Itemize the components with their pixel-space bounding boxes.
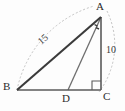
vertex-label-D: D (62, 93, 70, 104)
length-label-10: 10 (106, 45, 116, 55)
vertex-label-A: A (96, 1, 104, 12)
geometry-figure: A B C D 15 10 (0, 0, 125, 111)
angle-tick-2-icon (96, 28, 99, 29)
segment-BA (17, 17, 101, 90)
right-angle-marker-C (92, 81, 101, 90)
arc-radius-15 (17, 6, 94, 90)
vertex-label-B: B (3, 81, 10, 92)
vertex-label-C: C (103, 91, 110, 102)
